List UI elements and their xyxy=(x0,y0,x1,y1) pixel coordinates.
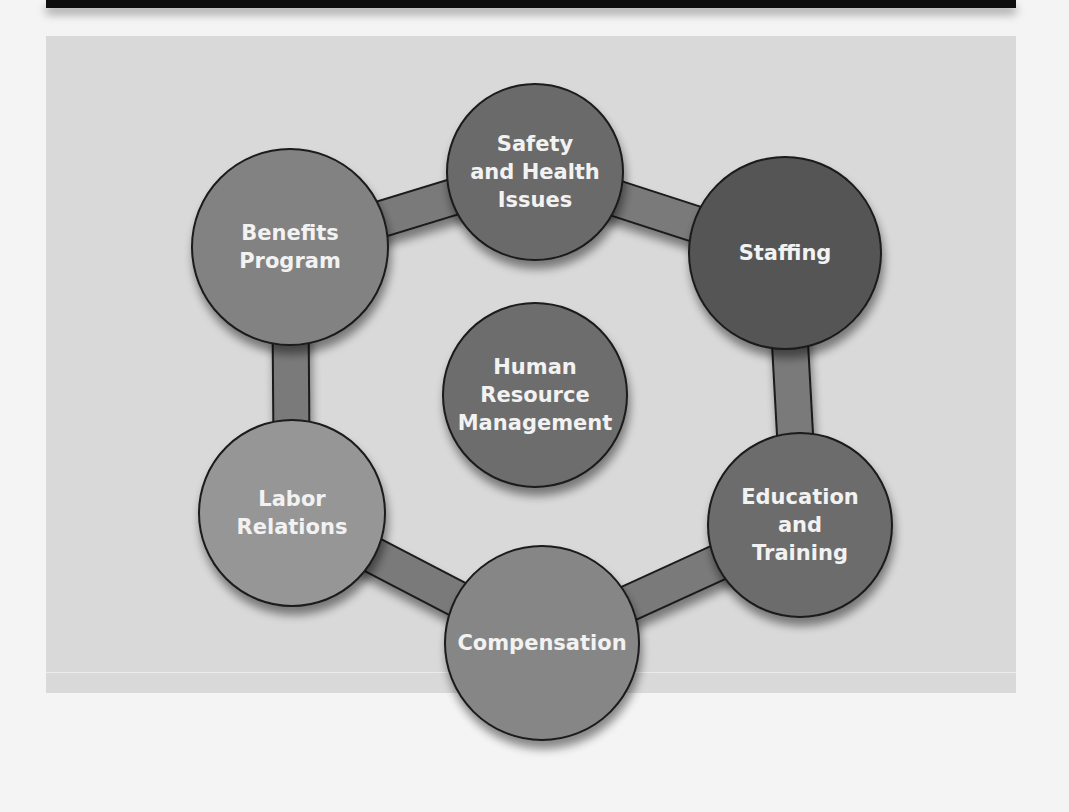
node-staffing-label: Staffing xyxy=(739,239,832,267)
node-center-hrm-label: Human Resource Management xyxy=(458,353,613,437)
node-benefits-label: Benefits Program xyxy=(239,219,341,275)
node-compensation-label: Compensation xyxy=(457,629,626,657)
node-safety-label: Safety and Health Issues xyxy=(470,130,600,214)
node-education-label: Education and Training xyxy=(741,483,859,567)
node-labor-label: Labor Relations xyxy=(237,485,348,541)
